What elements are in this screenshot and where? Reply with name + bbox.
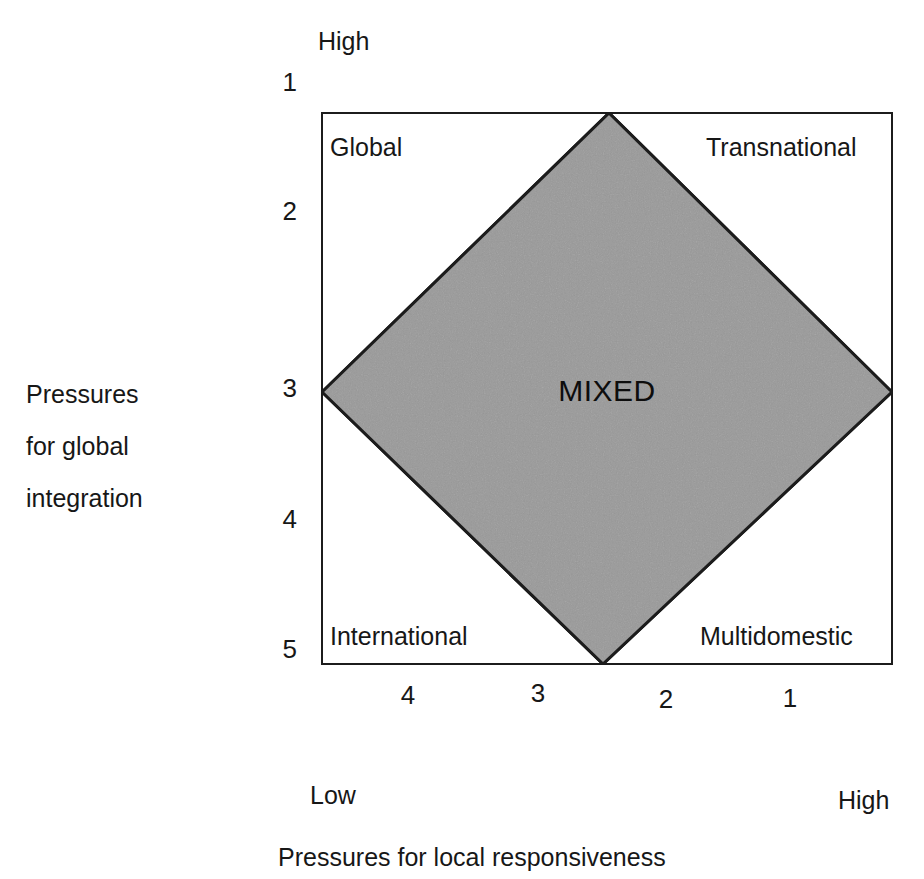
- center-label-mixed: MIXED: [321, 374, 893, 408]
- y-axis-tick-2: 2: [271, 196, 297, 227]
- quadrant-label-multidomestic: Multidomestic: [700, 622, 853, 651]
- top-crop-artifact: · · · ·: [560, 0, 636, 7]
- x-axis-tick-1: 1: [775, 683, 805, 714]
- quadrant-label-transnational: Transnational: [706, 133, 857, 162]
- quadrant-label-global: Global: [330, 133, 402, 162]
- y-axis-tick-1: 1: [271, 67, 297, 98]
- x-axis-tick-4: 4: [393, 680, 423, 711]
- x-axis-tick-2: 2: [651, 684, 681, 715]
- y-axis-title-line-3: integration: [26, 472, 276, 524]
- x-axis-tick-3: 3: [523, 678, 553, 709]
- y-axis-title-line-2: for global: [26, 420, 276, 472]
- strategy-matrix-figure: · · · · High 1 2 3 4 5 Global Transnatio…: [0, 0, 924, 879]
- quadrant-label-international: International: [330, 622, 468, 651]
- y-axis-title-line-1: Pressures: [26, 368, 276, 420]
- x-axis-max-label: High: [838, 788, 889, 813]
- x-axis-min-label: Low: [310, 783, 356, 808]
- y-axis-tick-5: 5: [271, 634, 297, 665]
- x-axis-title: Pressures for local responsiveness: [278, 843, 666, 872]
- y-axis-title: Pressures for global integration: [26, 368, 276, 524]
- y-axis-max-label: High: [318, 29, 369, 54]
